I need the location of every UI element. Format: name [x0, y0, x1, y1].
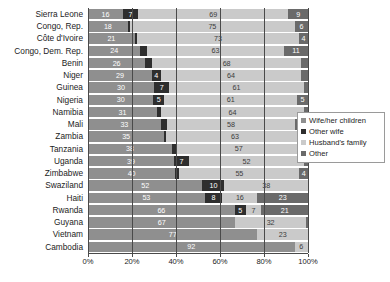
bar-segment: 52	[88, 180, 202, 191]
bar-segment: 4	[152, 70, 161, 81]
bar-segment: 57	[176, 144, 301, 155]
bar-segment: 68	[152, 58, 302, 69]
bar-segment: 75	[130, 21, 295, 32]
segment-value-label: 61	[227, 96, 235, 103]
segment-value-label: 53	[142, 194, 150, 201]
category-label: Mali	[0, 118, 86, 130]
stacked-bar: 926	[88, 242, 308, 253]
x-axis-ticks: 0%20%40%60%80%100%	[88, 254, 308, 266]
bar-row: 351632	[88, 131, 308, 143]
bar-row: 7723	[88, 229, 308, 241]
segment-value-label: 66	[157, 207, 165, 214]
segment-value-label: 7	[160, 84, 164, 91]
x-tick-label: 60%	[212, 257, 227, 266]
stacked-bar: 67321	[88, 217, 308, 228]
bar-segment: 11	[284, 46, 308, 57]
category-label: Congo, Dem. Rep.	[0, 45, 86, 57]
x-tick-label: 40%	[168, 257, 183, 266]
stacked-bar: 181756	[88, 21, 308, 32]
bar-segment: 61	[164, 95, 297, 106]
segment-value-label: 33	[120, 121, 128, 128]
bar-segment: 7	[123, 9, 138, 20]
bar-segment: 63	[166, 131, 303, 142]
bar-segment: 4	[299, 33, 308, 44]
bar-row: 312642	[88, 106, 308, 118]
segment-value-label: 35	[122, 133, 130, 140]
bar-row: 167699	[88, 8, 308, 20]
legend-item: Other	[301, 148, 381, 159]
segment-value-label: 61	[233, 84, 241, 91]
bar-segment: 69	[138, 9, 288, 20]
segment-value-label: 67	[158, 219, 166, 226]
x-tick-label: 80%	[256, 257, 271, 266]
segment-value-label: 16	[236, 194, 244, 201]
segment-value-label: 64	[229, 109, 237, 116]
stacked-bar: 294643	[88, 70, 308, 81]
bar-segment: 7	[154, 82, 169, 93]
stacked-bar: 5381623	[88, 193, 308, 204]
segment-value-label: 7	[252, 207, 256, 214]
stacked-bar: 382573	[88, 144, 308, 155]
bar-segment: 21	[88, 33, 135, 44]
bar-segment: 58	[167, 119, 295, 130]
bar-segment: 3	[145, 58, 152, 69]
bar-segment: 39	[88, 156, 174, 167]
bar-segment: 3	[301, 70, 308, 81]
bar-row: 665721	[88, 204, 308, 216]
segment-value-label: 38	[262, 182, 270, 189]
bar-segment: 29	[88, 70, 152, 81]
bar-row: 926	[88, 241, 308, 253]
bar-segment: 38	[88, 144, 172, 155]
bar-segment: 26	[88, 58, 145, 69]
bar-row: 333586	[88, 118, 308, 130]
bar-segment: 1	[306, 217, 308, 228]
stacked-bar: 7723	[88, 229, 308, 240]
bar-segment: 3	[301, 58, 308, 69]
bar-row: 521038	[88, 180, 308, 192]
category-label: Vietnam	[0, 229, 86, 241]
segment-value-label: 64	[227, 72, 235, 79]
category-label: Zimbabwe	[0, 167, 86, 179]
bar-segment: 16	[88, 9, 123, 20]
bar-segment: 53	[88, 193, 205, 204]
bar-segment: 64	[161, 70, 302, 81]
segment-value-label: 4	[302, 35, 306, 42]
bar-segment: 8	[205, 193, 223, 204]
category-label: Benin	[0, 57, 86, 69]
bar-segment: 21	[261, 205, 308, 216]
stacked-bar: 2436311	[88, 46, 308, 57]
bar-segment: 73	[137, 33, 299, 44]
category-label: Guinea	[0, 82, 86, 94]
bar-segment: 24	[88, 46, 140, 57]
segment-value-label: 11	[292, 47, 299, 54]
segment-value-label: 5	[301, 96, 305, 103]
segment-value-label: 31	[119, 109, 127, 116]
bar-segment: 6	[295, 242, 308, 253]
legend-label: Other	[309, 150, 328, 158]
bar-segment: 7	[174, 156, 189, 167]
segment-value-label: 10	[209, 182, 217, 189]
segment-value-label: 63	[231, 133, 239, 140]
bar-segment: 7	[246, 205, 262, 216]
stacked-bar: 665721	[88, 205, 308, 216]
segment-value-label: 77	[169, 231, 177, 238]
bar-row: 305615	[88, 94, 308, 106]
category-label: Tanzania	[0, 143, 86, 155]
segment-value-label: 68	[223, 60, 231, 67]
x-tick-label: 0%	[83, 257, 94, 266]
bar-segment: 30	[88, 95, 153, 106]
bar-segment: 64	[161, 107, 303, 118]
category-label: Swaziland	[0, 180, 86, 192]
category-label: Côte d'Ivoire	[0, 33, 86, 45]
bar-segment: 52	[189, 156, 303, 167]
bar-segment: 10	[202, 180, 224, 191]
bar-segment: 92	[88, 242, 295, 253]
stacked-bar: 397522	[88, 156, 308, 167]
legend-swatch-icon	[301, 140, 306, 145]
segment-value-label: 21	[107, 35, 115, 42]
category-label: Zambia	[0, 131, 86, 143]
segment-value-label: 40	[128, 170, 136, 177]
segment-value-label: 24	[110, 47, 118, 54]
bar-segment: 67	[88, 217, 235, 228]
segment-value-label: 9	[296, 11, 300, 18]
